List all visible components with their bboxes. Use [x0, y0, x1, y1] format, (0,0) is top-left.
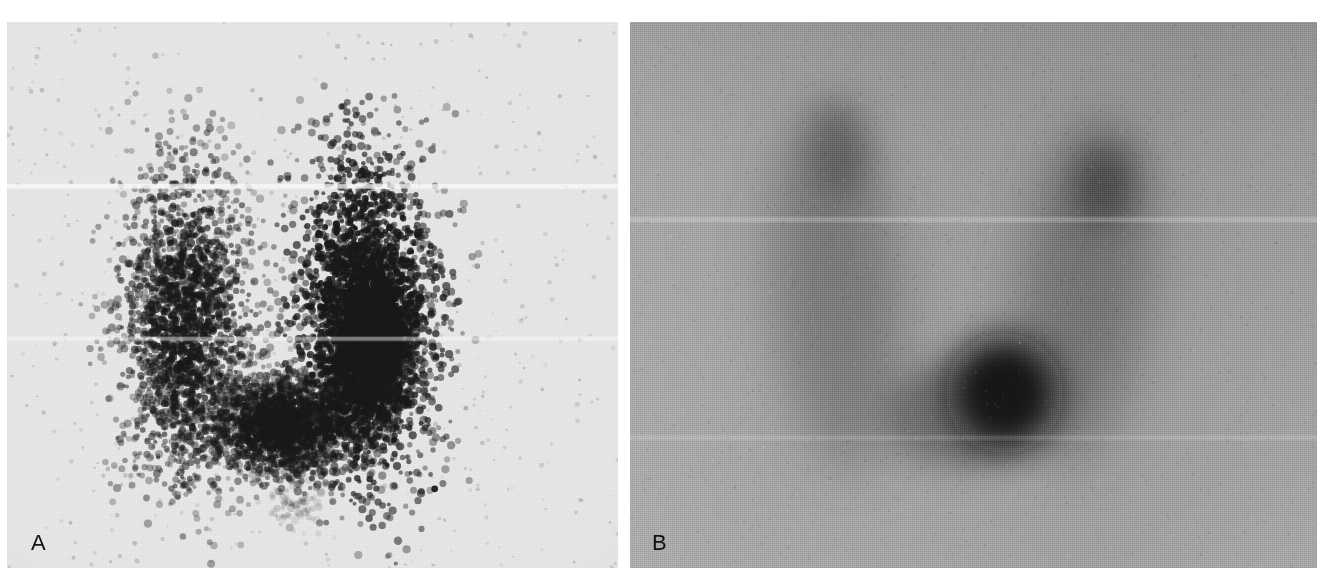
panel-b-intensity-map	[630, 22, 1317, 568]
panel-a-scanline-streaks	[7, 22, 618, 568]
panel-b-halftone-texture	[630, 22, 1317, 568]
panel-label-a: A	[31, 532, 46, 554]
panel-b-scintigram: B	[630, 22, 1317, 568]
panel-a-film-grain	[7, 22, 618, 568]
panel-label-b: B	[652, 532, 667, 554]
figure-container: A B	[0, 0, 1335, 586]
panel-b-scanline-streaks	[630, 22, 1317, 568]
panel-b-background-tone	[630, 22, 1317, 568]
panel-b-vignette	[630, 22, 1317, 568]
panel-a-vignette	[7, 22, 618, 568]
panel-a-dot-cloud	[7, 22, 618, 568]
panel-a-scintigram: A	[7, 22, 618, 568]
